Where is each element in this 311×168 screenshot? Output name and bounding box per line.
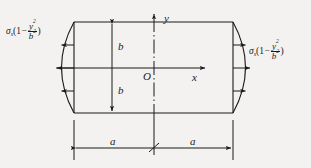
right-stress-close-paren: ) xyxy=(281,47,284,57)
right-stress-denominator: b2 xyxy=(271,52,280,61)
dimension-label-a-left: a xyxy=(110,136,116,147)
dimension-label-b-lower: b xyxy=(118,85,124,96)
right-stress-fraction: y2 b2 xyxy=(271,42,280,62)
x-axis-label: x xyxy=(192,72,197,83)
right-stress-subscript: s xyxy=(254,51,256,57)
left-stress-close-paren: ) xyxy=(38,27,41,37)
left-stress-denominator: b2 xyxy=(28,32,37,41)
right-stress-minus: − xyxy=(264,47,270,57)
figure-canvas xyxy=(0,0,311,168)
dimension-label-b-upper: b xyxy=(118,41,124,52)
dimension-label-a-right: a xyxy=(190,136,196,147)
left-stress-fraction: y2 b2 xyxy=(28,22,37,42)
stress-distribution-figure: y x O b b a a σs(1− y2 b2 ) σs(1− y2 b2 … xyxy=(0,0,311,168)
left-stress-denominator-exponent: 2 xyxy=(33,28,36,34)
left-stress-numerator-exponent: 2 xyxy=(33,18,36,24)
right-stress-label: σs(1− y2 b2 ) xyxy=(249,42,284,62)
left-stress-label: σs(1− y2 b2 ) xyxy=(6,22,41,42)
right-load-arrows xyxy=(233,45,250,91)
left-stress-subscript: s xyxy=(11,31,13,37)
left-stress-minus: − xyxy=(21,27,27,37)
coordinate-axes xyxy=(56,14,205,155)
right-stress-numerator-exponent: 2 xyxy=(276,38,279,44)
origin-label: O xyxy=(143,71,151,82)
y-axis-label: y xyxy=(164,13,169,24)
right-stress-denominator-exponent: 2 xyxy=(276,48,279,54)
